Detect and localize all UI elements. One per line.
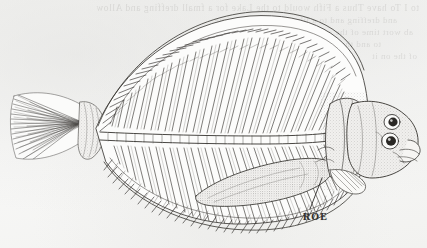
flatfish-anatomy-illustration: [0, 0, 427, 248]
scanned-page: to I To have Thus a Fifh would to the La…: [0, 0, 427, 248]
roe-label: ROE: [303, 211, 328, 222]
upper-eye: [384, 115, 400, 130]
lower-eye: [382, 133, 399, 149]
caudal-fin: [10, 93, 84, 163]
fish-head: [344, 96, 424, 182]
